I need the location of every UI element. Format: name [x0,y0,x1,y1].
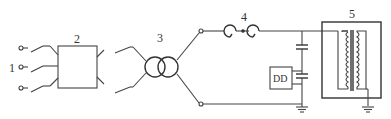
detector-label: DD [273,73,287,84]
ground-icon [362,107,374,112]
capacitor-lower [296,74,308,78]
circuit-diagram: 1 2 3 4 [0,0,391,119]
input-terminals [19,46,28,90]
transformer-windings [338,30,366,91]
transformer-symbol [145,57,178,77]
terminal-top [199,29,203,33]
label-4: 4 [241,10,247,24]
capacitor-upper [296,45,308,49]
label-2: 2 [74,32,80,46]
output-switches [97,47,146,93]
terminal-bottom [199,102,203,106]
label-1: 1 [9,61,15,75]
ground-icon [296,106,308,112]
label-3: 3 [157,31,163,45]
label-5: 5 [349,7,355,21]
switchgear-box [58,46,97,88]
input-switches [31,46,58,92]
